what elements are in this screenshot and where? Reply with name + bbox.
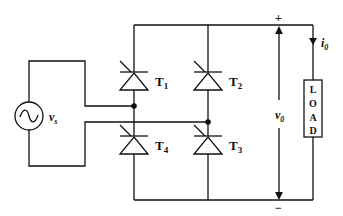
label-vs: vs [49,110,57,126]
source-top-wire [29,61,134,106]
load-letter: A [309,112,317,123]
ac-source-icon [15,102,43,130]
load-letter: O [309,98,317,109]
junction-dot [131,103,137,109]
circuit-diagram: T1 T2 T3 T4 vs v0 + − i0 L O A D [0,0,343,216]
load-letter: D [309,125,316,136]
label-t1: T1 [155,74,169,91]
label-vo: v0 [275,108,284,124]
label-t3: T3 [229,138,243,155]
label-t4: T4 [155,138,169,155]
minus-sign: − [275,201,282,215]
output-current-arrow [309,38,317,45]
label-io: i0 [321,36,328,52]
junction-dot [205,119,211,125]
plus-sign: + [275,11,282,25]
source-bottom-wire [29,122,208,166]
load-letter: L [310,84,317,95]
label-t2: T2 [229,74,243,91]
